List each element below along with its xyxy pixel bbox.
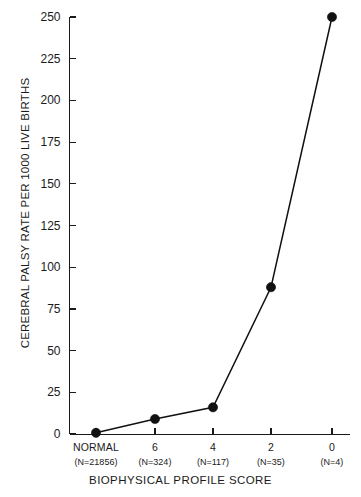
y-tick-label: 200 (40, 93, 60, 107)
x-axis-category-labels: NORMAL6420 (73, 441, 335, 453)
x-sample-size-label: (N=21856) (75, 457, 118, 467)
data-point-marker (327, 12, 336, 21)
data-point-marker (266, 283, 275, 292)
y-tick-label: 225 (40, 52, 60, 66)
data-point-markers (91, 12, 336, 437)
x-sample-size-label: (N=4) (321, 457, 344, 467)
y-axis-tick-labels: 0255075100125150175200225250 (40, 10, 60, 441)
x-sample-size-label: (N=324) (139, 457, 172, 467)
data-point-marker (208, 403, 217, 412)
x-category-label: NORMAL (73, 441, 119, 453)
x-category-label: 0 (329, 441, 335, 453)
x-axis-title: BIOPHYSICAL PROFILE SCORE (0, 474, 361, 486)
y-tick-label: 25 (47, 385, 61, 399)
line-chart-plot: 0255075100125150175200225250 NORMAL6420 … (0, 0, 361, 497)
data-point-marker (91, 428, 100, 437)
y-tick-label: 0 (54, 427, 61, 441)
x-sample-size-label: (N=117) (197, 457, 229, 467)
x-sample-size-label: (N=35) (257, 457, 285, 467)
x-category-label: 2 (268, 441, 274, 453)
x-category-label: 4 (210, 441, 216, 453)
y-tick-label: 100 (40, 260, 60, 274)
y-tick-label: 75 (47, 302, 61, 316)
x-axis-sample-size-labels: (N=21856)(N=324)(N=117)(N=35)(N=4) (75, 457, 344, 467)
y-tick-label: 125 (40, 219, 60, 233)
data-series-line (96, 17, 332, 433)
chart-figure: CEREBRAL PALSY RATE PER 1000 LIVE BIRTHS… (0, 0, 361, 497)
x-axis-ticks (96, 428, 332, 434)
y-tick-label: 50 (47, 344, 61, 358)
y-tick-label: 175 (40, 135, 60, 149)
y-tick-label: 250 (40, 10, 60, 24)
y-axis-ticks (70, 17, 76, 434)
y-tick-label: 150 (40, 177, 60, 191)
x-category-label: 6 (152, 441, 158, 453)
data-point-marker (150, 414, 159, 423)
